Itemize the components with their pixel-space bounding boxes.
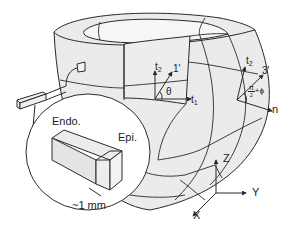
scale-label: ~1 mm — [72, 200, 106, 211]
frame1-theta-label: θ — [166, 87, 172, 97]
y-axis-label: Y — [252, 187, 259, 198]
x-axis-label: X — [193, 210, 200, 221]
frame2-angle-label: π2+ϕ — [248, 84, 264, 98]
frame1-fiber-label: 1' — [173, 64, 180, 74]
frame2-normal-label: n — [272, 104, 278, 115]
frame1-t1-label: t1 — [191, 95, 198, 106]
endo-label: Endo. — [52, 116, 81, 127]
frame1-t2-label: t2 — [155, 62, 162, 73]
lv-diagram: Endo. Epi. ~1 mm t2 1' θ t1 t2 3' π2+ϕ n… — [0, 0, 292, 234]
epi-label: Epi. — [118, 132, 137, 143]
frame2-sheet-label: 3' — [262, 66, 269, 76]
frame2-t2-label: t2 — [246, 56, 253, 67]
z-axis-label: Z — [223, 153, 230, 164]
diagram-drawing — [0, 0, 292, 234]
